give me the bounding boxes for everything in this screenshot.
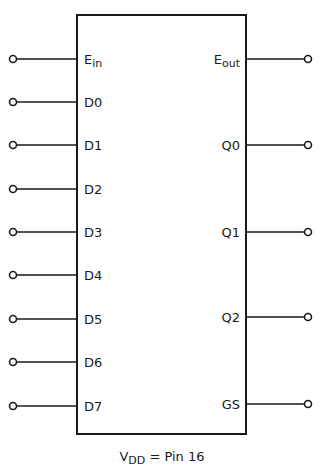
right-pin-lines	[246, 56, 312, 408]
pin-terminal-icon	[305, 401, 312, 408]
pin-terminal-icon	[10, 186, 17, 193]
pin-terminal-icon	[10, 56, 17, 63]
pin-terminal-icon	[10, 316, 17, 323]
power-pin-caption: VDD = Pin 16	[0, 449, 334, 464]
pin-terminal-icon	[305, 229, 312, 236]
pin-label-gs: GS	[222, 397, 240, 413]
pin-label-q0: Q0	[221, 138, 240, 154]
pin-terminal-icon	[10, 99, 17, 106]
pin-label-q2: Q2	[221, 310, 240, 326]
encoder-chip-diagram	[0, 0, 334, 470]
pin-label-d4: D4	[84, 268, 102, 284]
pin-label-d2: D2	[84, 182, 102, 198]
pin-terminal-icon	[305, 56, 312, 63]
pin-terminal-icon	[10, 272, 17, 279]
pin-label-q1: Q1	[221, 225, 240, 241]
pin-label-d1: D1	[84, 138, 102, 154]
pin-label-d3: D3	[84, 225, 102, 241]
left-pin-lines	[10, 56, 78, 410]
pin-label-eout: Eout	[214, 52, 240, 68]
pin-label-d0: D0	[84, 95, 102, 111]
pin-terminal-icon	[10, 359, 17, 366]
pin-label-d7: D7	[84, 399, 102, 415]
pin-label-ein: Ein	[84, 52, 102, 68]
pin-terminal-icon	[10, 142, 17, 149]
pin-label-d6: D6	[84, 355, 102, 371]
pin-terminal-icon	[10, 229, 17, 236]
pin-label-d5: D5	[84, 312, 102, 328]
pin-terminal-icon	[305, 314, 312, 321]
pin-terminal-icon	[305, 142, 312, 149]
pin-terminal-icon	[10, 403, 17, 410]
